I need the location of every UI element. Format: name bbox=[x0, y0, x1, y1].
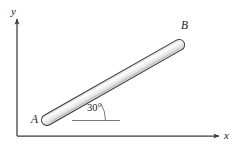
rod-shadow-edge bbox=[51, 49, 179, 122]
rod-inclined-diagram: y x 30° A B bbox=[0, 0, 239, 150]
point-b-label: B bbox=[181, 19, 188, 31]
figure-canvas: y x 30° A B bbox=[0, 0, 239, 150]
angle-label: 30° bbox=[87, 102, 102, 113]
rod-highlight bbox=[48, 44, 176, 117]
x-axis-label: x bbox=[223, 129, 229, 141]
rod-ab bbox=[40, 37, 187, 127]
rod-end-labels: A B bbox=[30, 19, 188, 125]
y-axis-label: y bbox=[10, 5, 16, 17]
point-a-label: A bbox=[30, 113, 39, 125]
